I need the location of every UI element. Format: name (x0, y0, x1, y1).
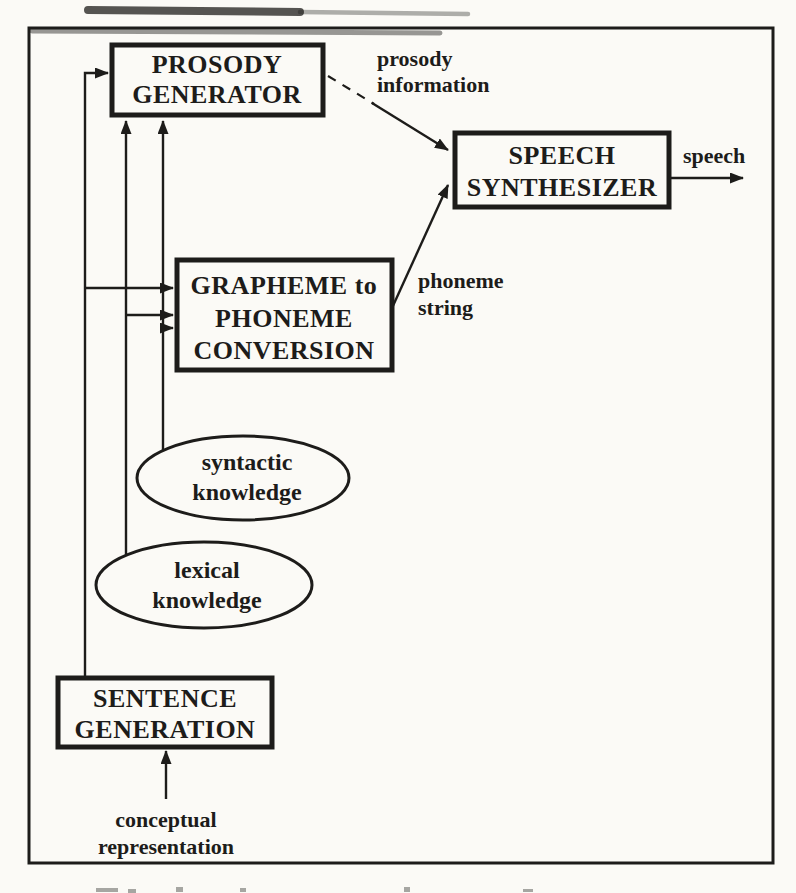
edge-label-speech: speech (683, 143, 745, 168)
scan-smudge (32, 10, 468, 33)
grapheme-conversion-label-line1: GRAPHEME to (191, 271, 378, 300)
phoneme-string-line1: phoneme (418, 268, 504, 293)
node-sentence-generation: SENTENCE GENERATION (58, 678, 272, 747)
prosody-generator-label-line2: GENERATOR (132, 80, 302, 109)
edge-label-prosody-information: prosody information (377, 46, 489, 97)
grapheme-conversion-label-line2: PHONEME (215, 304, 353, 333)
edge-label-conceptual-representation: conceptual representation (98, 807, 234, 859)
sentence-generation-label-line2: GENERATION (75, 715, 256, 744)
cropped-caption-fragment (96, 887, 533, 893)
conceptual-representation-line2: representation (98, 834, 234, 859)
edge-prosody-to-synthesizer-dashed (328, 76, 374, 104)
prosody-information-line2: information (377, 72, 489, 97)
node-grapheme-to-phoneme: GRAPHEME to PHONEME CONVERSION (177, 260, 392, 370)
lexical-knowledge-label-line2: knowledge (152, 587, 262, 613)
prosody-information-line1: prosody (377, 46, 452, 71)
edge-prosody-to-synthesizer (372, 103, 448, 150)
speech-output-label: speech (683, 143, 745, 168)
speech-synthesizer-label-line2: SYNTHESIZER (467, 173, 657, 202)
node-speech-synthesizer: SPEECH SYNTHESIZER (455, 133, 669, 207)
sentence-generation-label-line1: SENTENCE (93, 684, 237, 713)
prosody-generator-label-line1: PROSODY (152, 50, 283, 79)
lexical-knowledge-label-line1: lexical (174, 557, 240, 583)
edge-label-phoneme-string: phoneme string (418, 268, 504, 320)
scanned-figure-page: PROSODY GENERATOR SPEECH SYNTHESIZER GRA… (0, 0, 796, 893)
lexical-knowledge-ellipse (96, 542, 312, 628)
syntactic-knowledge-label-line1: syntactic (202, 449, 293, 475)
node-prosody-generator: PROSODY GENERATOR (112, 45, 323, 115)
node-lexical-knowledge: lexical knowledge (96, 542, 312, 628)
grapheme-conversion-label-line3: CONVERSION (193, 336, 374, 365)
node-syntactic-knowledge: syntactic knowledge (137, 436, 349, 520)
speech-synthesizer-label-line1: SPEECH (508, 141, 615, 170)
conceptual-representation-line1: conceptual (115, 807, 216, 832)
phoneme-string-line2: string (418, 295, 473, 320)
speech-synthesis-block-diagram: PROSODY GENERATOR SPEECH SYNTHESIZER GRA… (0, 0, 796, 893)
syntactic-knowledge-label-line2: knowledge (192, 479, 302, 505)
